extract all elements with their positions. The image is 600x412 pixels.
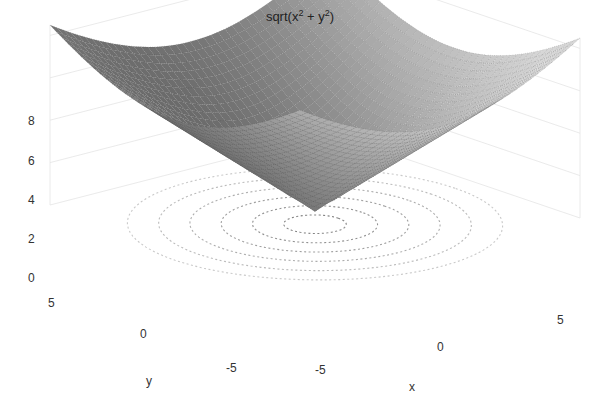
z-tick-4: 4	[28, 193, 35, 207]
x-axis-label: x	[409, 380, 415, 394]
y-tick-neg5: -5	[226, 361, 237, 375]
z-tick-6: 6	[28, 154, 35, 168]
y-tick-5: 5	[48, 296, 55, 310]
title-mid: + y	[303, 9, 324, 24]
x-tick-0: 0	[437, 340, 444, 354]
title-end: )	[330, 9, 334, 24]
z-tick-8: 8	[28, 114, 35, 128]
surface-plot	[0, 0, 600, 412]
y-tick-0: 0	[140, 327, 147, 341]
x-tick-5: 5	[557, 313, 564, 327]
chart-title: sqrt(x2 + y2)	[0, 8, 600, 24]
title-base: sqrt(x	[266, 9, 299, 24]
z-tick-2: 2	[28, 232, 35, 246]
x-tick-neg5: -5	[315, 363, 326, 377]
z-tick-0: 0	[28, 271, 35, 285]
y-axis-label: y	[146, 374, 152, 388]
